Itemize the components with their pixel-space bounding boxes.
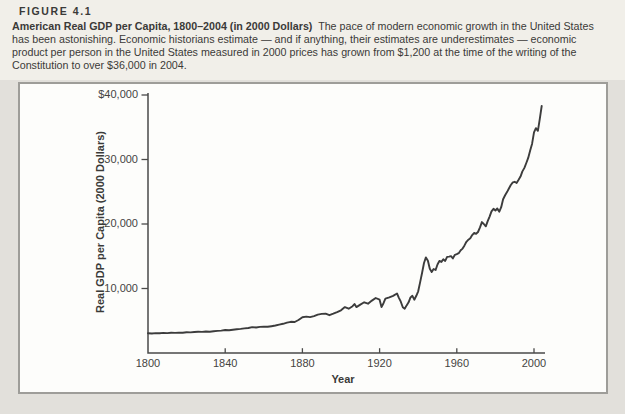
y-tick-label: 10,000 xyxy=(20,282,138,295)
figure-header: FIGURE 4.1 American Real GDP per Capita,… xyxy=(0,0,625,80)
y-tick-label: 30,000 xyxy=(20,153,138,166)
x-tick-label: 1960 xyxy=(427,357,487,370)
x-tick-label: 1840 xyxy=(195,357,255,370)
figure-caption: American Real GDP per Capita, 1800–2004 … xyxy=(12,20,612,72)
x-tick-label: 1920 xyxy=(350,357,410,370)
x-axis-label: Year xyxy=(313,373,373,385)
x-tick-label: 1800 xyxy=(118,357,178,370)
y-tick-label: 20,000 xyxy=(20,217,138,230)
y-tick-label: $40,000 xyxy=(20,88,138,101)
figure-title: American Real GDP per Capita, 1800–2004 … xyxy=(12,20,312,32)
chart-panel: Year Real GDP per Capita (2000 Dollars) … xyxy=(18,82,608,394)
axes xyxy=(148,93,545,353)
x-tick-label: 2000 xyxy=(504,357,564,370)
gdp-line xyxy=(148,106,542,334)
figure-number: FIGURE 4.1 xyxy=(19,5,92,17)
tick-marks xyxy=(142,95,535,353)
x-tick-label: 1880 xyxy=(272,357,332,370)
